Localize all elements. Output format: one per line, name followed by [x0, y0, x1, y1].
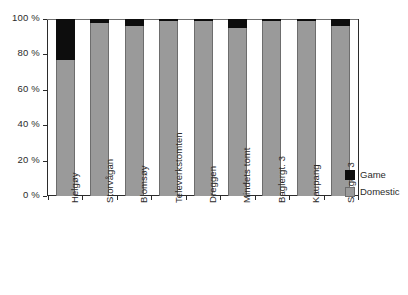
x-axis-tick-label: Helgøy — [69, 172, 80, 203]
chart-legend: Game Domestic — [345, 167, 400, 201]
x-axis-tick-mark — [324, 196, 325, 200]
x-axis-tick-label: Storvågan — [104, 159, 115, 203]
x-axis-tick-mark — [151, 196, 152, 200]
bar-segment-game[interactable] — [56, 19, 75, 60]
legend-item-domestic[interactable]: Domestic — [345, 184, 400, 199]
bar-segment-game[interactable] — [159, 19, 178, 21]
y-axis-tick-label: 40 % — [18, 118, 40, 129]
y-axis-tick-mark — [43, 54, 47, 55]
figure-caption — [8, 286, 268, 294]
bar-segment-game[interactable] — [194, 19, 213, 21]
x-axis-tick-mark — [220, 196, 221, 200]
y-axis-tick-label: 60 % — [18, 83, 40, 94]
x-axis-tick-label: Kaupang — [310, 164, 321, 203]
x-axis-tick-mark — [289, 196, 290, 200]
legend-label-domestic: Domestic — [360, 186, 400, 197]
y-axis-tick-label: 100 % — [12, 12, 40, 23]
x-axis-tick-mark — [255, 196, 256, 200]
legend-swatch-game-icon — [345, 170, 355, 180]
y-axis-tick-label: 0 % — [23, 189, 40, 200]
x-axis-tick-label: Dreggen — [207, 166, 218, 203]
bar-segment-game[interactable] — [331, 19, 350, 26]
legend-swatch-domestic-icon — [345, 187, 355, 197]
bar-segment-game[interactable] — [297, 19, 316, 21]
y-axis-tick-mark — [43, 196, 47, 197]
x-axis-tick-label: Mindets tomt — [241, 147, 252, 203]
y-axis-tick-label: 20 % — [18, 154, 40, 165]
y-axis-tick-mark — [43, 90, 47, 91]
y-axis-tick-mark — [43, 125, 47, 126]
stacked-bar[interactable] — [56, 19, 75, 196]
bar-segment-game[interactable] — [262, 19, 281, 21]
bar-segment-game[interactable] — [90, 19, 109, 23]
stacked-bar-chart: 0 %20 %40 %60 %80 %100 % HelgøyStorvågan… — [0, 0, 408, 295]
x-axis-tick-label: Baglergt. 3 — [276, 156, 287, 203]
bar-segment-game[interactable] — [125, 19, 144, 26]
x-axis-tick-mark — [117, 196, 118, 200]
y-axis-tick-mark — [43, 19, 47, 20]
x-axis-tick-label: Televerkstomten — [173, 132, 184, 203]
x-axis-tick-mark — [82, 196, 83, 200]
bar-segment-game[interactable] — [228, 19, 247, 28]
x-axis-tick-mark — [48, 196, 49, 200]
x-axis-tick-mark — [186, 196, 187, 200]
bar-group[interactable] — [56, 19, 75, 196]
y-axis-tick-mark — [43, 161, 47, 162]
x-axis-tick-label: Blomsøy — [138, 165, 149, 203]
legend-label-game: Game — [360, 169, 386, 180]
y-axis-tick-label: 80 % — [18, 47, 40, 58]
legend-item-game[interactable]: Game — [345, 167, 400, 182]
